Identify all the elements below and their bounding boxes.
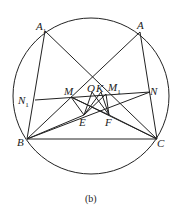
label-B: B (17, 136, 24, 148)
label-F: F (104, 116, 112, 128)
label-O: O (87, 82, 95, 94)
segment-B-E (27, 115, 84, 139)
label-A1: A1 (35, 20, 47, 35)
label-N1: N1 (17, 94, 29, 109)
label-M: M (63, 85, 74, 97)
geometry-figure: A1 A B C N1 N M O K M1 E F (b) (0, 0, 180, 209)
figure-caption: (b) (85, 193, 97, 205)
label-N: N (149, 85, 158, 97)
label-A: A (136, 19, 144, 31)
label-E: E (78, 116, 86, 128)
label-C: C (157, 137, 165, 149)
segment-C-F (109, 115, 157, 139)
label-M1: M1 (107, 81, 121, 96)
label-K: K (95, 82, 104, 94)
